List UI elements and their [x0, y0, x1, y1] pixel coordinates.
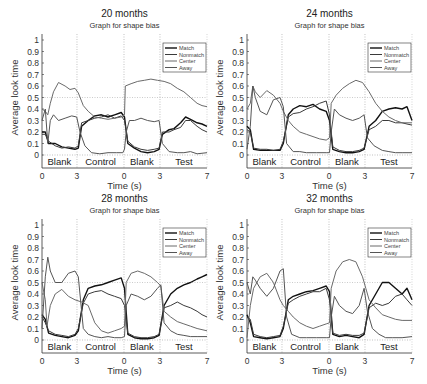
y-tick-label: 1	[239, 35, 244, 45]
legend-label: Away	[179, 65, 193, 71]
y-tick-label: 0.8	[232, 243, 244, 253]
y-tick-label: 0.5	[232, 93, 244, 103]
y-tick-label: 0.2	[27, 127, 39, 137]
y-tick-label: 0.2	[232, 127, 244, 137]
phase-label: Blank	[47, 156, 71, 167]
x-axis-label: Time (s)	[312, 365, 346, 376]
y-tick-label: 0.6	[232, 266, 244, 276]
legend-label: Match	[384, 45, 399, 51]
phase-label: Test	[175, 156, 193, 167]
chart-svg: 20 monthsGraph for shape bias00.10.20.30…	[0, 0, 213, 192]
y-tick-label: 0	[34, 150, 39, 160]
x-tick-label: 7	[410, 356, 415, 366]
x-tick-label: 0	[40, 356, 45, 366]
y-tick-label: 0.8	[27, 58, 39, 68]
legend-label: Away	[384, 65, 398, 71]
y-tick-label: 0.5	[27, 278, 39, 288]
series-line-center	[42, 79, 207, 119]
y-tick-label: 0.3	[27, 301, 39, 311]
legend-label: Nonmatch	[179, 52, 204, 58]
x-tick-label: 0	[245, 356, 250, 366]
phase-label: Control	[85, 341, 116, 352]
chart-subtitle: Graph for shape bias	[89, 206, 159, 215]
legend-label: Match	[179, 45, 194, 51]
legend-label: Away	[384, 250, 398, 256]
legend-label: Center	[179, 243, 196, 249]
y-tick-label: 0	[34, 335, 39, 345]
y-tick-label: 0.3	[232, 301, 244, 311]
legend-label: Nonmatch	[384, 52, 409, 58]
x-tick-label: 3	[75, 171, 80, 181]
legend-label: Center	[384, 243, 401, 249]
phase-label: Control	[85, 156, 116, 167]
y-tick-label: 0.1	[27, 139, 39, 149]
phase-label: Blank	[252, 341, 276, 352]
y-tick-label: 0.7	[27, 255, 39, 265]
x-tick-label: 7	[410, 171, 415, 181]
x-tick-label: 0	[40, 171, 45, 181]
y-tick-label: 0.5	[232, 278, 244, 288]
y-axis-label: Average look time	[214, 60, 225, 136]
x-tick-label: 3	[158, 171, 163, 181]
y-tick-label: 0.3	[232, 116, 244, 126]
phase-label: Control	[290, 341, 321, 352]
x-tick-label: 3	[280, 171, 285, 181]
phase-label: Control	[290, 156, 321, 167]
y-tick-label: 0.4	[232, 289, 244, 299]
y-tick-label: 1	[239, 220, 244, 230]
x-tick-label: 3	[158, 356, 163, 366]
y-tick-label: 1	[34, 35, 39, 45]
y-tick-label: 0.6	[27, 266, 39, 276]
legend-label: Center	[179, 58, 196, 64]
y-tick-label: 0.9	[27, 47, 39, 57]
chart-title: 28 months	[101, 193, 148, 204]
x-tick-label: 3	[363, 356, 368, 366]
chart-title: 20 months	[101, 8, 148, 19]
y-tick-label: 0.2	[27, 312, 39, 322]
phase-label: Blank	[130, 156, 154, 167]
phase-label: Test	[380, 341, 398, 352]
y-tick-label: 0.9	[232, 47, 244, 57]
chart-subtitle: Graph for shape bias	[294, 21, 364, 30]
y-tick-label: 0.3	[27, 116, 39, 126]
legend-label: Match	[179, 230, 194, 236]
chart-panel-24-months: 24 monthsGraph for shape bias00.10.20.30…	[205, 0, 418, 192]
y-tick-label: 0.8	[232, 58, 244, 68]
y-tick-label: 0.5	[27, 93, 39, 103]
series-line-center	[42, 271, 207, 333]
chart-title: 32 months	[306, 193, 353, 204]
y-tick-label: 0.4	[27, 289, 39, 299]
y-tick-label: 0.9	[232, 232, 244, 242]
y-tick-label: 0.9	[27, 232, 39, 242]
legend-label: Match	[384, 230, 399, 236]
y-tick-label: 0.8	[27, 243, 39, 253]
y-tick-label: 0.1	[232, 139, 244, 149]
y-tick-label: 0.2	[232, 312, 244, 322]
y-tick-label: 0	[239, 150, 244, 160]
legend-label: Nonmatch	[384, 237, 409, 243]
chart-subtitle: Graph for shape bias	[89, 21, 159, 30]
chart-subtitle: Graph for shape bias	[294, 206, 364, 215]
legend-label: Nonmatch	[179, 237, 204, 243]
x-tick-label: 3	[280, 356, 285, 366]
legend-label: Center	[384, 58, 401, 64]
phase-label: Test	[175, 341, 193, 352]
y-tick-label: 1	[34, 220, 39, 230]
y-tick-label: 0.7	[232, 70, 244, 80]
y-tick-label: 0.6	[27, 81, 39, 91]
y-tick-label: 0	[239, 335, 244, 345]
phase-label: Test	[380, 156, 398, 167]
y-tick-label: 0.7	[232, 255, 244, 265]
chart-svg: 28 monthsGraph for shape bias00.10.20.30…	[0, 185, 213, 377]
x-tick-label: 3	[75, 356, 80, 366]
phase-label: Blank	[47, 341, 71, 352]
legend-label: Away	[179, 250, 193, 256]
x-axis-label: Time (s)	[107, 365, 141, 376]
y-tick-label: 0.4	[27, 104, 39, 114]
y-tick-label: 0.7	[27, 70, 39, 80]
y-tick-label: 0.6	[232, 81, 244, 91]
y-tick-label: 0.4	[232, 104, 244, 114]
chart-svg: 32 monthsGraph for shape bias00.10.20.30…	[205, 185, 418, 377]
chart-panel-32-months: 32 monthsGraph for shape bias00.10.20.30…	[205, 185, 418, 377]
y-tick-label: 0.1	[232, 324, 244, 334]
